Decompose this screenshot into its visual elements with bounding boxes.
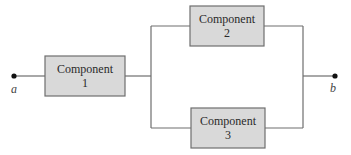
component-1-block: Component 1 bbox=[45, 56, 125, 96]
component-2-label-line1: Component bbox=[199, 12, 256, 26]
terminal-a-dot bbox=[11, 73, 16, 78]
terminal-b-dot bbox=[332, 73, 337, 78]
component-2-block: Component 2 bbox=[190, 6, 264, 46]
terminal-b-label: b bbox=[330, 81, 336, 95]
component-3-label-line1: Component bbox=[200, 114, 257, 128]
component-1-label-line2: 1 bbox=[82, 76, 88, 90]
reliability-diagram: a b Component 1 Component 2 Component 3 bbox=[0, 0, 351, 155]
terminal-a-label: a bbox=[11, 82, 17, 96]
component-3-label-line2: 3 bbox=[225, 128, 231, 142]
component-3-block: Component 3 bbox=[191, 108, 265, 148]
component-2-label-line2: 2 bbox=[224, 26, 230, 40]
component-1-label-line1: Component bbox=[57, 62, 114, 76]
